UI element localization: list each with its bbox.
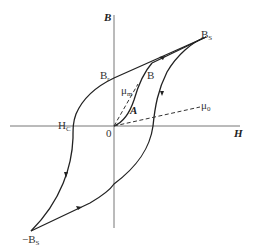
br-label: Br (100, 69, 110, 83)
origin-label: 0 (106, 127, 112, 139)
mu-0-line (114, 107, 200, 126)
mu-0-label: μ0 (201, 99, 211, 113)
b-axis-label: B (103, 11, 111, 23)
hc-label: HC (58, 119, 71, 133)
hysteresis-diagram: B H 0 BS −BS Br HC B A μm μ0 (0, 0, 258, 251)
arrow-right (160, 91, 164, 96)
b-point-label: B (147, 69, 154, 81)
bs-label: BS (201, 28, 212, 42)
arrow-left (64, 172, 68, 178)
descending-branch (31, 37, 206, 231)
neg-bs-label: −BS (22, 233, 40, 247)
a-point-label: A (129, 104, 137, 116)
mu-m-label: μm (121, 84, 133, 98)
h-axis-label: H (233, 127, 243, 139)
minor-loop-upper (152, 37, 206, 63)
ascending-branch (31, 37, 206, 231)
